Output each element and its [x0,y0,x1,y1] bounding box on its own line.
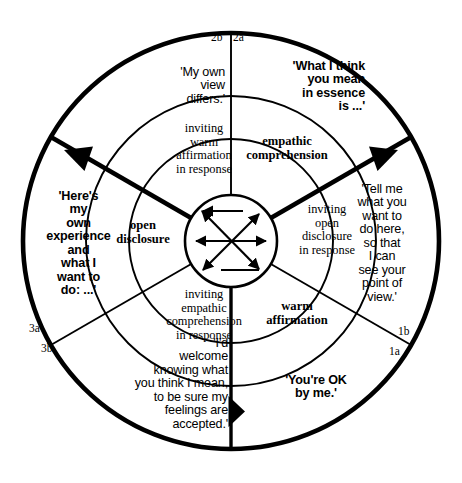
communication-wheel-diagram: 'What I think you mean in essence is ...… [0,0,462,483]
wheel-graphic [0,0,462,483]
